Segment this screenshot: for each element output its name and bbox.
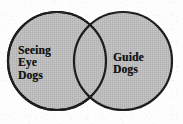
venn-diagram-figure: Seeing Eye Dogs Guide Dogs — [0, 0, 183, 124]
venn-label-left-line-3: Dogs — [18, 69, 51, 81]
venn-label-left-line-1: Seeing — [18, 44, 51, 56]
venn-label-left: Seeing Eye Dogs — [18, 44, 51, 81]
venn-label-left-line-2: Eye — [18, 56, 51, 68]
venn-label-right-line-1: Guide — [113, 51, 144, 63]
venn-label-right-line-2: Dogs — [113, 63, 144, 75]
venn-label-right: Guide Dogs — [113, 51, 144, 76]
